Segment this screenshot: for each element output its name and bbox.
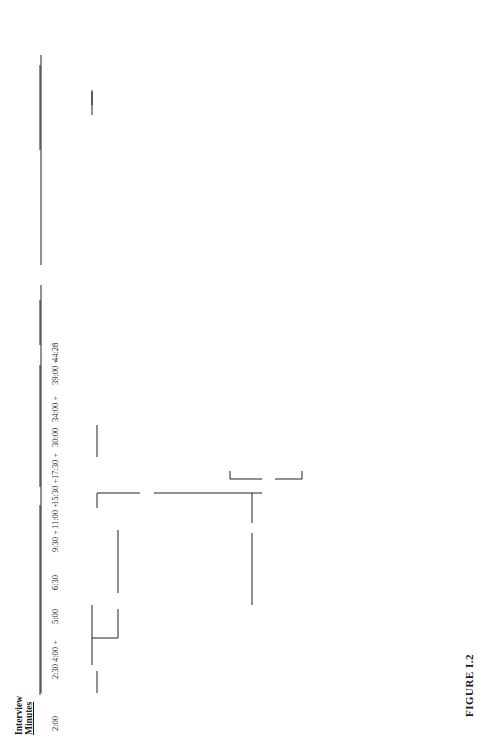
time-8: 17:30 +	[50, 453, 61, 479]
time-9: 30:00	[50, 428, 61, 447]
time-1: 2:30	[50, 664, 61, 679]
time-3: 5:00	[50, 609, 61, 624]
time-2: 4:00 +	[50, 640, 61, 662]
time-10: 34:00 +	[50, 396, 61, 422]
time-7: 15:30 +	[50, 479, 61, 505]
diagram-edges	[0, 0, 478, 755]
timeline-header: Interview Minutes	[14, 696, 34, 735]
time-6: 11:00 +	[50, 503, 61, 529]
timeline-header-line2: Minutes	[24, 696, 34, 735]
timeline-header-line1: Interview	[14, 696, 24, 735]
time-0: 2:00	[50, 716, 61, 731]
figure-caption: FIGURE I.2	[464, 654, 475, 717]
time-11: 39:00 +	[50, 359, 61, 385]
time-12: 44:28	[50, 343, 61, 362]
diagnostic-flow-diagram: Interview Minutes 2:00 2:30 4:00 + 5:00 …	[0, 0, 478, 755]
time-5: 9:30 +	[50, 530, 61, 552]
time-4: 6:30	[50, 575, 61, 590]
